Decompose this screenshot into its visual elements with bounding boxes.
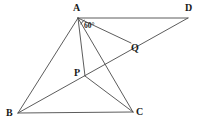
segment-b-d-through-p-q <box>18 18 188 113</box>
angle-label-60-degrees: 60° <box>84 22 95 30</box>
segment-p-c <box>85 76 133 112</box>
vertex-label-d: D <box>185 3 192 13</box>
vertex-label-b: B <box>6 108 13 118</box>
geometry-figure: A B C D P Q 60° <box>0 0 202 127</box>
vertex-label-q: Q <box>131 43 139 53</box>
segment-a-c <box>78 18 133 112</box>
segment-a-b <box>18 18 78 113</box>
segment-b-c <box>18 112 133 113</box>
vertex-label-c: C <box>136 107 143 117</box>
vertex-label-p: P <box>74 68 80 78</box>
segments-group <box>18 18 188 113</box>
geometry-canvas <box>0 0 202 127</box>
vertex-label-a: A <box>73 3 80 13</box>
